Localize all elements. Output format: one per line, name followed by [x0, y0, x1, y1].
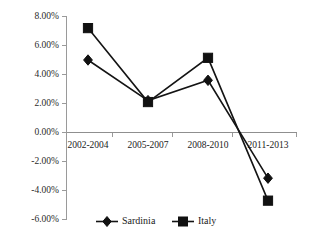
x-tick-label: 2008-2010 — [187, 140, 228, 150]
chart-canvas: 8.00% 6.00% 4.00% 2.00% 0.00% -2.00% -4.… — [0, 0, 315, 240]
line-chart: 8.00% 6.00% 4.00% 2.00% 0.00% -2.00% -4.… — [0, 0, 315, 240]
y-axis-labels: 8.00% 6.00% 4.00% 2.00% 0.00% -2.00% -4.… — [31, 11, 59, 224]
x-axis-labels: 2002-2004 2005-2007 2008-2010 2011-2013 — [67, 140, 288, 150]
diamond-marker-icon — [103, 217, 111, 227]
series-line-italy — [88, 28, 268, 201]
x-tick-marks — [113, 133, 297, 138]
square-marker-icon — [203, 53, 212, 62]
x-tick-label: 2002-2004 — [67, 140, 108, 150]
y-tick-label: 8.00% — [34, 11, 59, 21]
y-tick-label: 6.00% — [34, 40, 59, 50]
square-marker-icon — [83, 24, 92, 33]
square-marker-icon — [179, 217, 188, 226]
square-marker-icon — [263, 196, 272, 205]
series-sardinia — [84, 55, 273, 184]
legend-item-sardinia: Sardinia — [96, 215, 156, 226]
chart-legend: Sardinia Italy — [96, 215, 216, 226]
legend-label-italy: Italy — [198, 215, 216, 226]
square-marker-icon — [143, 97, 152, 106]
y-tick-label: 2.00% — [34, 98, 59, 108]
series-line-sardinia — [88, 60, 268, 178]
y-tick-marks — [62, 17, 67, 220]
y-tick-label: 0.00% — [34, 127, 59, 137]
diamond-marker-icon — [84, 55, 93, 65]
series-italy — [83, 24, 272, 206]
legend-item-italy: Italy — [172, 215, 216, 226]
x-tick-label: 2011-2013 — [248, 140, 289, 150]
y-tick-label: -2.00% — [31, 156, 59, 166]
x-tick-label: 2005-2007 — [127, 140, 168, 150]
series-layer — [83, 24, 272, 206]
legend-label-sardinia: Sardinia — [122, 215, 156, 226]
y-tick-label: -4.00% — [31, 185, 59, 195]
y-tick-label: 4.00% — [34, 69, 59, 79]
y-tick-label: -6.00% — [31, 214, 59, 224]
